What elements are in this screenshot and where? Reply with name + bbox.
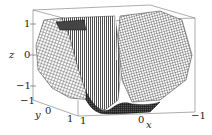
x-axis-label: x	[146, 120, 152, 130]
surface-fold	[56, 20, 86, 30]
y-axis-label: y	[35, 110, 41, 120]
surface-right-face	[118, 11, 192, 102]
surface-plot	[0, 0, 212, 135]
z-tick-1: 1	[24, 19, 30, 29]
y-tick-neg1: −1	[20, 96, 35, 106]
y-tick-1: 1	[67, 114, 73, 124]
z-axis-label: z	[9, 50, 14, 60]
x-tick-0: 0	[138, 115, 144, 125]
z-tick-0: 0	[24, 50, 30, 60]
x-tick-neg1: −1	[191, 111, 206, 121]
x-tick-1: 1	[80, 116, 86, 126]
z-tick-neg1: −1	[16, 81, 31, 91]
y-tick-0: 0	[45, 106, 51, 116]
